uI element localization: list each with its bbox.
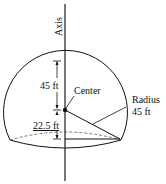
dim-45-label: 45 ft bbox=[40, 80, 59, 91]
axis-label: Axis bbox=[53, 17, 64, 36]
dome-diagram: Axis 45 ft Center Radius 45 ft 22.5 ft bbox=[0, 0, 166, 184]
radius-label: Radius bbox=[132, 94, 160, 105]
center-label: Center bbox=[74, 85, 101, 96]
arrow-down-icon bbox=[56, 105, 59, 109]
center-leader bbox=[66, 96, 74, 108]
arrow-down-icon bbox=[56, 135, 59, 139]
center-point bbox=[63, 108, 67, 112]
arrow-up-icon bbox=[56, 111, 59, 115]
radius-leader bbox=[93, 107, 126, 124]
radius-value-label: 45 ft bbox=[132, 106, 151, 117]
arrow-up-icon bbox=[56, 61, 59, 65]
dim-22-label: 22.5 ft bbox=[33, 120, 59, 131]
